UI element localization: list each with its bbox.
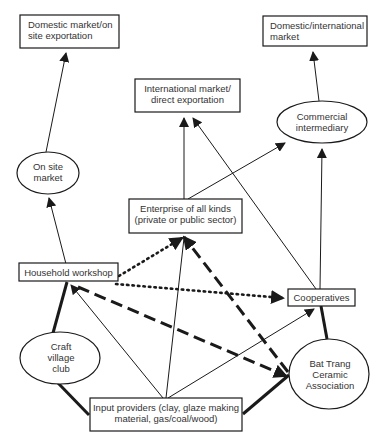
svg-text:intermediary: intermediary [296, 122, 349, 133]
node-cooperatives: Cooperatives [288, 289, 355, 306]
node-label-line: material, gas/coal/wood) [115, 413, 218, 424]
svg-text:Commercial: Commercial [297, 111, 348, 122]
node-label-line: market [270, 31, 299, 42]
svg-text:club: club [52, 363, 69, 374]
node-commercial-intermediary: Commercial intermediary [277, 101, 367, 143]
node-label-line: International market/ [144, 83, 231, 94]
value-chain-diagram: Domestic market/on site exportation Dome… [0, 0, 387, 445]
svg-text:Household workshop: Household workshop [24, 267, 113, 278]
svg-text:market: market [33, 172, 62, 183]
node-label-line: village [48, 352, 75, 363]
svg-text:material, gas/coal/wood): material, gas/coal/wood) [115, 413, 218, 424]
edge-battrang-input-thick [243, 375, 289, 414]
node-label-line: Input providers (clay, glaze making [93, 402, 239, 413]
svg-text:Association: Association [306, 380, 355, 391]
svg-text:Craft: Craft [51, 341, 72, 352]
node-label-line: Commercial [297, 111, 348, 122]
node-label-line: On site [33, 161, 63, 172]
node-label-line: club [52, 363, 69, 374]
edge-enterprise-to-commercial [188, 143, 285, 199]
edge-household-to-enterprise-dotted [119, 238, 182, 276]
edge-battrang-to-enterprise-dashed [184, 237, 288, 372]
svg-text:market: market [270, 31, 299, 42]
node-label-line: Enterprise of all kinds [140, 203, 231, 214]
edge-input-to-enterprise [166, 238, 184, 398]
svg-text:direct exportation: direct exportation [151, 94, 224, 105]
svg-text:village: village [48, 352, 75, 363]
edge-craftclub-input-thick [58, 383, 89, 415]
svg-text:Domestic market/on: Domestic market/on [28, 19, 112, 30]
svg-text:Domestic/international: Domestic/international [270, 20, 364, 31]
node-label-line: direct exportation [151, 94, 224, 105]
node-label-line: site exportation [28, 30, 92, 41]
edge-battrang-cooperatives-thick [321, 306, 327, 339]
node-label-line: Bat Trang [309, 358, 350, 369]
svg-text:Enterprise of all kinds: Enterprise of all kinds [140, 203, 231, 214]
node-household-workshop: Household workshop [19, 263, 118, 281]
edge-onsite-to-domestic-onsite [46, 53, 66, 152]
node-label-line: market [33, 172, 62, 183]
edge-household-to-cooperatives-dotted [116, 284, 283, 298]
node-international-direct-exportation: International market/ direct exportation [135, 79, 240, 112]
edge-cooperatives-to-commercial [320, 149, 322, 289]
edge-commercial-to-domestic-international [313, 52, 319, 101]
svg-text:Input providers (clay, glaze m: Input providers (clay, glaze making [93, 402, 239, 413]
svg-text:(private or public sector): (private or public sector) [135, 214, 237, 225]
node-craft-village-club: Craft village club [20, 332, 100, 384]
node-bat-trang-ceramic-association: Bat Trang Ceramic Association [289, 339, 369, 409]
node-label-line: Association [306, 380, 355, 391]
node-label-line: Domestic/international [270, 20, 364, 31]
node-label-line: intermediary [296, 122, 349, 133]
node-on-site-market: On site market [17, 152, 79, 194]
edge-craftclub-household-thick [53, 282, 67, 333]
node-input-providers: Input providers (clay, glaze making mate… [90, 398, 242, 431]
svg-text:International market/: International market/ [144, 83, 231, 94]
edge-household-to-onsite-market [49, 198, 66, 264]
node-label-line: Domestic market/on [28, 19, 112, 30]
svg-text:site exportation: site exportation [28, 30, 92, 41]
node-label-line: Ceramic [312, 369, 348, 380]
svg-text:Bat Trang: Bat Trang [309, 358, 350, 369]
node-label-line: Craft [51, 341, 72, 352]
node-domestic-international-market: Domestic/international market [263, 16, 367, 46]
node-label-line: Cooperatives [294, 292, 350, 303]
svg-text:Cooperatives: Cooperatives [294, 292, 350, 303]
node-domestic-onsite-exportation: Domestic market/on site exportation [20, 15, 119, 48]
svg-text:On site: On site [33, 161, 63, 172]
node-enterprise-all-kinds: Enterprise of all kinds (private or publ… [129, 199, 242, 233]
node-label-line: (private or public sector) [135, 214, 237, 225]
svg-text:Ceramic: Ceramic [312, 369, 348, 380]
node-label-line: Household workshop [24, 267, 113, 278]
